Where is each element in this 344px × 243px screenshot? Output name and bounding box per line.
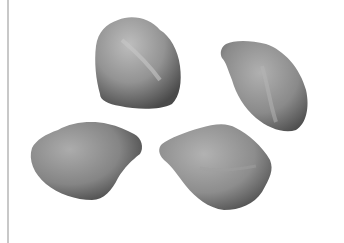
seed-bottom-left	[31, 122, 142, 200]
seed-bottom-right	[159, 124, 271, 210]
photo-frame: Grayscale photograph of four seeds on a …	[0, 0, 344, 243]
seed-top-left	[95, 17, 181, 109]
seeds-photo	[0, 0, 344, 243]
seed-top-right	[221, 41, 308, 131]
